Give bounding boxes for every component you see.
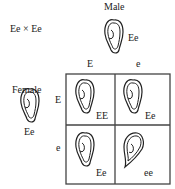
cell-genotype-Ee-top: Ee [145,111,156,121]
cell-genotype-EE: EE [96,111,108,121]
male-ear-icon [105,20,123,53]
cell-ear-icon-ee [124,133,143,167]
punnett-diagram [0,0,175,189]
cell-genotype-Ee-bottom: Ee [96,168,107,178]
punnett-grid [66,74,170,184]
cell-ear-icon-EE [76,80,94,113]
female-ear-icon [21,89,39,122]
cell-ear-icon-Ee-bottom [76,133,94,166]
cell-genotype-ee: ee [144,168,153,178]
cell-ear-icon-Ee-top [124,80,142,113]
